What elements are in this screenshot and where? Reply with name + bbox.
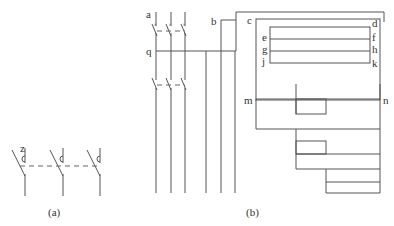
label-e: e (262, 32, 267, 43)
label-h: h (372, 44, 378, 55)
label-f: f (372, 32, 376, 43)
label-d: d (372, 18, 378, 29)
label-g: g (262, 44, 268, 55)
label-z: z (20, 143, 25, 154)
svg-text:×: × (154, 22, 157, 28)
label-b: b (211, 16, 217, 27)
label-q: q (146, 46, 152, 57)
diagram-canvas: × × × (0, 0, 394, 226)
label-n: n (383, 95, 389, 106)
label-k: k (372, 58, 378, 69)
label-c: c (247, 15, 252, 26)
label-m: m (244, 95, 253, 106)
svg-text:×: × (169, 22, 172, 28)
caption-a: (a) (48, 207, 60, 218)
svg-text:×: × (183, 22, 186, 28)
panel-b-circuit: × × × (152, 12, 384, 193)
label-j: j (262, 56, 265, 67)
label-a: a (146, 9, 151, 20)
caption-b: (b) (246, 207, 259, 218)
panel-a-switch (12, 148, 100, 196)
